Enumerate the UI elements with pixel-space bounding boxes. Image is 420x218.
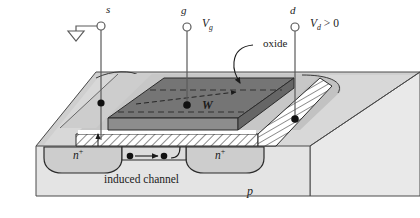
channel-electron-left: [127, 153, 134, 160]
gate-voltage-label: Vg: [202, 18, 213, 32]
induced-channel-label: induced channel: [104, 174, 179, 186]
gate-voltage-subscript: g: [209, 23, 213, 32]
drain-terminal-label: d: [290, 5, 296, 16]
gate-terminal-label: g: [181, 5, 187, 16]
drain-contact-dot: [291, 115, 299, 123]
drain-voltage-label: Vd > 0: [310, 18, 339, 32]
drain-voltage-relation: > 0: [321, 17, 339, 29]
source-contact-dot: [97, 99, 104, 106]
gate-voltage-symbol: V: [202, 17, 209, 29]
oxide-front-hatch: [76, 134, 258, 146]
nplus-drain-superscript: +: [221, 147, 226, 156]
oxide-annotation-label: oxide: [263, 38, 287, 49]
drain-voltage-symbol: V: [310, 17, 317, 29]
channel-width-label: W: [202, 99, 213, 111]
nplus-drain-label: n+: [215, 148, 225, 161]
gate-front-face: [108, 118, 238, 130]
drain-terminal-node[interactable]: [291, 23, 299, 31]
ground-icon: [68, 31, 84, 41]
source-terminal-node[interactable]: [97, 22, 105, 30]
nplus-source-superscript: +: [79, 147, 84, 156]
gate-terminal-node[interactable]: [183, 23, 191, 31]
mosfet-figure: s g Vg d Vd > 0 oxide W n+ n+ induced ch…: [0, 0, 420, 218]
substrate-label: p: [247, 185, 253, 197]
oxide-white-gap: [78, 130, 256, 134]
nplus-source-label: n+: [73, 148, 83, 161]
channel-electron-right: [161, 153, 168, 160]
gate-contact-dot: [183, 101, 191, 109]
source-terminal-label: s: [106, 4, 110, 15]
